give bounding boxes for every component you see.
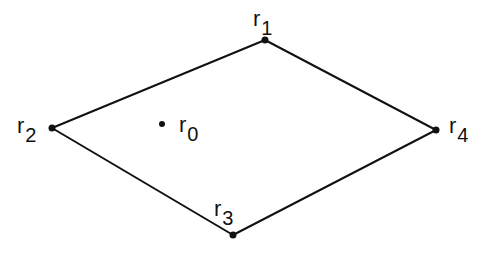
edge-r4-r1 [265,40,436,130]
edge-r1-r2 [52,40,265,128]
label-r2-sub: 2 [25,124,36,146]
label-r3-base: r [214,196,221,221]
label-r0-sub: 0 [187,123,198,145]
label-r3-sub: 3 [222,207,233,229]
label-r0: r0 [179,114,198,136]
vertex-r2-dot [49,125,56,132]
label-r3: r3 [214,198,233,220]
label-r2-base: r [17,113,24,138]
edge-r3-r4 [233,130,436,235]
label-r4: r4 [449,115,468,137]
quadrilateral-diagram [0,0,487,263]
label-r4-base: r [449,113,456,138]
vertex-r4-dot [433,127,440,134]
vertex-r3-dot [230,232,237,239]
label-r4-sub: 4 [457,124,468,146]
label-r1-sub: 1 [261,17,272,39]
label-r1-base: r [253,6,260,31]
edge-r2-r3 [52,128,233,235]
interior-point-r0-dot [159,121,165,127]
label-r2: r2 [17,115,36,137]
label-r1: r1 [253,8,272,30]
label-r0-base: r [179,112,186,137]
